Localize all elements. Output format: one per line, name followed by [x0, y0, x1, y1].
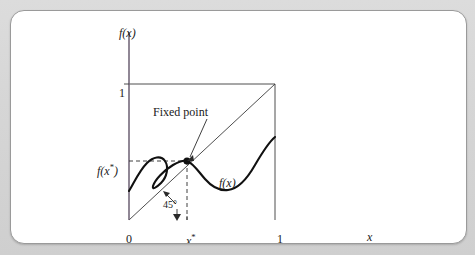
y-value-label-prefix: f(x [97, 164, 110, 178]
x-axis-label: x [367, 231, 372, 243]
angle-annotation: 45° [163, 200, 177, 210]
fixed-point-diagram [11, 11, 466, 243]
fixed-point-leader-line [190, 119, 207, 157]
y-value-label-fx-star: f(x*) [97, 163, 118, 177]
x-tick-label-star: * [191, 232, 195, 242]
function-curve [129, 137, 275, 191]
y-tick-label-one: 1 [119, 87, 125, 99]
x-tick-label-xstar: x* [186, 233, 196, 244]
fixed-point-annotation: Fixed point [153, 106, 208, 118]
y-axis-label: f(x) [119, 27, 136, 39]
curve-label: f(x) [219, 177, 236, 189]
y-value-label-suffix: ) [114, 164, 118, 178]
x-tick-label-one: 1 [277, 233, 283, 244]
angle-arrow-upper-head [163, 191, 170, 197]
figure-card: f(x) 1 f(x*) Fixed point f(x) 45° 0 x* 1… [10, 10, 467, 244]
x-tick-label-zero: 0 [126, 233, 132, 244]
